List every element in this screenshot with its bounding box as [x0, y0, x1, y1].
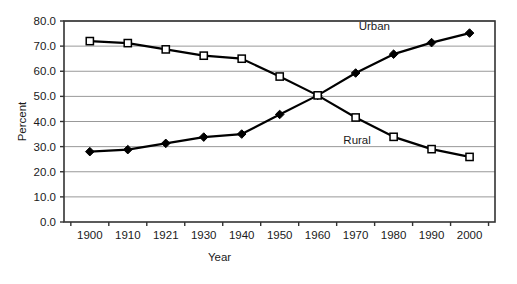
chart-background	[0, 0, 517, 284]
x-tick-label: 1960	[305, 229, 331, 241]
x-tick-label: 1970	[343, 229, 369, 241]
y-tick-label: 30.0	[34, 141, 56, 153]
y-tick-label: 50.0	[34, 90, 56, 102]
x-tick-label: 2000	[457, 229, 483, 241]
x-axis-tick-labels: 1900191019211930194019501960197019801990…	[77, 229, 482, 241]
y-tick-label: 70.0	[34, 40, 56, 52]
data-point-rural	[428, 146, 435, 153]
line-chart: 0.010.020.030.040.050.060.070.080.0 1900…	[0, 0, 517, 284]
y-tick-label: 10.0	[34, 191, 56, 203]
data-point-rural	[124, 40, 131, 47]
y-tick-label: 60.0	[34, 65, 56, 77]
x-tick-label: 1950	[267, 229, 293, 241]
x-tick-label: 1900	[77, 229, 103, 241]
x-tick-label: 1930	[191, 229, 217, 241]
data-point-rural	[466, 153, 473, 160]
y-axis-title: Percent	[16, 101, 28, 141]
x-tick-label: 1910	[115, 229, 141, 241]
data-point-rural	[352, 114, 359, 121]
chart-container: 0.010.020.030.040.050.060.070.080.0 1900…	[0, 0, 517, 284]
y-tick-label: 40.0	[34, 116, 56, 128]
y-tick-label: 20.0	[34, 166, 56, 178]
y-tick-label: 80.0	[34, 15, 56, 27]
data-point-rural	[86, 38, 93, 45]
x-tick-label: 1940	[229, 229, 255, 241]
x-tick-label: 1921	[153, 229, 179, 241]
x-axis-title: Year	[208, 251, 231, 263]
data-point-rural	[276, 73, 283, 80]
data-point-rural	[162, 46, 169, 53]
data-point-rural	[390, 133, 397, 140]
data-point-rural	[200, 52, 207, 59]
data-point-rural	[238, 55, 245, 62]
y-axis-tick-labels: 0.010.020.030.040.050.060.070.080.0	[34, 15, 56, 228]
series-label-urban: Urban	[359, 20, 390, 32]
y-tick-label: 0.0	[40, 216, 56, 228]
x-tick-label: 1990	[419, 229, 445, 241]
x-tick-label: 1980	[381, 229, 407, 241]
data-point-rural	[314, 92, 321, 99]
series-label-rural: Rural	[343, 134, 370, 146]
